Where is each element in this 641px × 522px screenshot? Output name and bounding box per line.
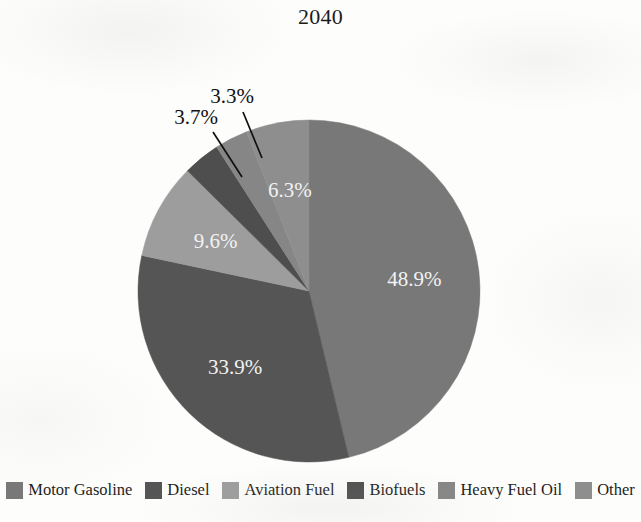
legend-item-label: Other (597, 482, 635, 499)
legend: Motor GasolineDieselAviation FuelBiofuel… (0, 482, 641, 499)
slice-value-label: 33.9% (208, 355, 262, 379)
slice-value-label: 6.3% (268, 178, 312, 202)
legend-item-label: Aviation Fuel (244, 482, 334, 499)
legend-item[interactable]: Motor Gasoline (6, 482, 132, 499)
pie-slice-group (138, 120, 480, 462)
legend-swatch (222, 482, 239, 499)
legend-item[interactable]: Other (575, 482, 635, 499)
legend-item-label: Motor Gasoline (28, 482, 132, 499)
legend-swatch (347, 482, 364, 499)
legend-item[interactable]: Diesel (145, 482, 209, 499)
legend-item[interactable]: Aviation Fuel (222, 482, 334, 499)
legend-item[interactable]: Heavy Fuel Oil (438, 482, 562, 499)
legend-swatch (6, 482, 23, 499)
legend-item-label: Heavy Fuel Oil (460, 482, 562, 499)
legend-item-label: Biofuels (369, 482, 425, 499)
legend-item-label: Diesel (167, 482, 209, 499)
legend-swatch (575, 482, 592, 499)
legend-item[interactable]: Biofuels (347, 482, 425, 499)
slice-value-label: 3.7% (174, 105, 218, 129)
pie-chart: 48.9%33.9%9.6%3.7%3.3%6.3% (0, 0, 641, 478)
slice-value-label: 9.6% (194, 229, 238, 253)
legend-swatch (438, 482, 455, 499)
slice-value-label: 48.9% (387, 267, 441, 291)
legend-swatch (145, 482, 162, 499)
slice-value-label: 3.3% (210, 84, 254, 108)
